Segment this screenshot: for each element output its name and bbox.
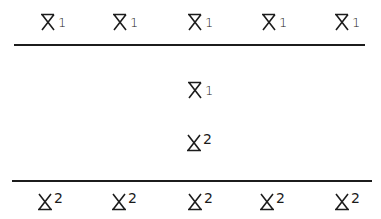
x-underbar-icon bbox=[187, 193, 203, 211]
x-underbar-icon bbox=[259, 193, 275, 211]
x-overbar-icon bbox=[187, 81, 203, 99]
x-underbar-icon bbox=[111, 193, 127, 211]
x-underbar-2-symbol: 2 bbox=[187, 191, 213, 211]
index-label: 2 bbox=[276, 191, 285, 205]
x-bar-1-symbol: 1 bbox=[112, 11, 138, 31]
x-bar-1-symbol: 1 bbox=[187, 11, 213, 31]
index-label: 2 bbox=[128, 191, 137, 205]
x-overbar-icon bbox=[334, 13, 350, 31]
x-underbar-icon bbox=[37, 193, 53, 211]
x-underbar-2-symbol: 2 bbox=[334, 191, 360, 211]
index-label: 1 bbox=[130, 16, 138, 29]
index-label: 2 bbox=[54, 191, 63, 205]
x-bar-1-symbol: 1 bbox=[40, 11, 66, 31]
x-bar-1-symbol: 1 bbox=[187, 79, 213, 99]
bottom-divider-line bbox=[12, 180, 372, 182]
top-divider-line bbox=[14, 44, 365, 46]
x-underbar-icon bbox=[186, 134, 202, 152]
x-overbar-icon bbox=[40, 13, 56, 31]
index-label: 1 bbox=[58, 16, 66, 29]
index-label: 1 bbox=[205, 16, 213, 29]
index-label: 1 bbox=[205, 84, 213, 97]
x-underbar-2-symbol: 2 bbox=[186, 132, 212, 152]
x-underbar-2-symbol: 2 bbox=[111, 191, 137, 211]
index-label: 1 bbox=[352, 16, 360, 29]
x-overbar-icon bbox=[261, 13, 277, 31]
x-underbar-2-symbol: 2 bbox=[37, 191, 63, 211]
x-bar-1-symbol: 1 bbox=[261, 11, 287, 31]
x-underbar-2-symbol: 2 bbox=[259, 191, 285, 211]
index-label: 1 bbox=[279, 16, 287, 29]
index-label: 2 bbox=[351, 191, 360, 205]
x-overbar-icon bbox=[112, 13, 128, 31]
x-overbar-icon bbox=[187, 13, 203, 31]
index-label: 2 bbox=[203, 132, 212, 146]
index-label: 2 bbox=[204, 191, 213, 205]
x-underbar-icon bbox=[334, 193, 350, 211]
x-bar-1-symbol: 1 bbox=[334, 11, 360, 31]
